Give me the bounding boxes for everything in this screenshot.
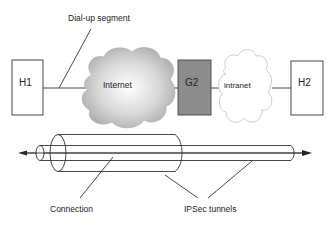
ipsec-leader-line-left: [165, 175, 198, 198]
ipsec-tunnels-label: IPSec tunnels: [184, 204, 236, 214]
host-h2-node: H2: [291, 61, 323, 115]
dialup-segment-label: Dial-up segment: [68, 13, 131, 23]
h2-label: H2: [298, 77, 311, 88]
g2-label: G2: [185, 77, 199, 88]
connection-label: Connection: [50, 204, 93, 214]
intranet-cloud: intranet: [219, 50, 272, 123]
intranet-label: intranet: [224, 81, 251, 90]
internet-label: Internet: [103, 80, 132, 90]
h1-label: H1: [19, 77, 32, 88]
internet-cloud: Internet: [82, 47, 175, 127]
ipsec-tunnel-diagram: Dial-up segment H1 Internet G2 intranet …: [0, 0, 335, 226]
connection-leader-line: [80, 157, 113, 198]
tunnel-illustration: [18, 135, 312, 172]
gateway-g2-node: G2: [178, 60, 211, 115]
ipsec-leader-line-right: [208, 161, 252, 198]
host-h1-node: H1: [12, 60, 43, 115]
